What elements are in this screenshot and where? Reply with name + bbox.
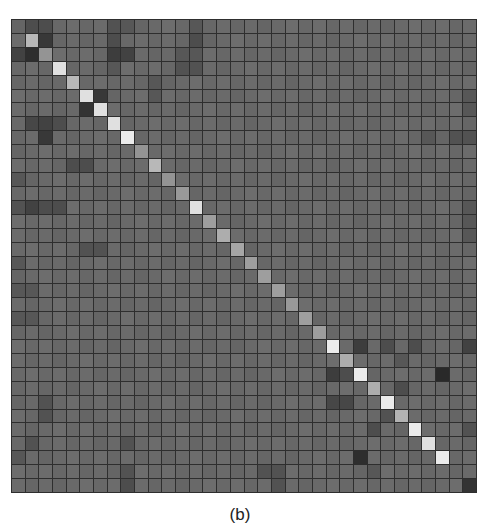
- matrix-cell: [436, 382, 449, 395]
- matrix-cell: [450, 410, 463, 423]
- matrix-cell: [12, 48, 25, 61]
- diagonal-cell: [327, 340, 340, 353]
- matrix-cell: [176, 312, 189, 325]
- matrix-cell: [217, 451, 230, 464]
- matrix-cell: [176, 131, 189, 144]
- matrix-cell: [203, 284, 216, 297]
- matrix-cell: [190, 257, 203, 270]
- matrix-cell: [381, 270, 394, 283]
- matrix-cell: [94, 465, 107, 478]
- matrix-cell: [26, 159, 39, 172]
- matrix-cell: [354, 103, 367, 116]
- matrix-cell: [354, 451, 367, 464]
- matrix-cell: [231, 354, 244, 367]
- matrix-cell: [340, 145, 353, 158]
- matrix-cell: [176, 382, 189, 395]
- matrix-cell: [217, 215, 230, 228]
- matrix-cell: [217, 423, 230, 436]
- matrix-cell: [368, 187, 381, 200]
- matrix-cell: [149, 215, 162, 228]
- matrix-cell: [395, 284, 408, 297]
- matrix-cell: [340, 396, 353, 409]
- matrix-cell: [381, 159, 394, 172]
- matrix-cell: [12, 465, 25, 478]
- matrix-cell: [53, 257, 66, 270]
- matrix-cell: [422, 173, 435, 186]
- matrix-cell: [368, 117, 381, 130]
- matrix-cell: [217, 410, 230, 423]
- matrix-cell: [53, 382, 66, 395]
- matrix-cell: [190, 298, 203, 311]
- matrix-cell: [217, 20, 230, 33]
- matrix-cell: [67, 131, 80, 144]
- matrix-cell: [463, 48, 476, 61]
- matrix-cell: [327, 159, 340, 172]
- matrix-cell: [53, 34, 66, 47]
- matrix-cell: [313, 437, 326, 450]
- matrix-cell: [203, 451, 216, 464]
- matrix-cell: [39, 145, 52, 158]
- matrix-cell: [245, 201, 258, 214]
- matrix-cell: [231, 396, 244, 409]
- matrix-cell: [299, 270, 312, 283]
- matrix-cell: [286, 173, 299, 186]
- matrix-cell: [121, 451, 134, 464]
- matrix-cell: [190, 326, 203, 339]
- matrix-cell: [381, 243, 394, 256]
- matrix-cell: [26, 103, 39, 116]
- matrix-cell: [286, 62, 299, 75]
- matrix-cell: [94, 215, 107, 228]
- matrix-cell: [108, 90, 121, 103]
- matrix-cell: [272, 90, 285, 103]
- matrix-cell: [80, 465, 93, 478]
- matrix-cell: [203, 34, 216, 47]
- matrix-cell: [422, 298, 435, 311]
- matrix-cell: [231, 173, 244, 186]
- matrix-cell: [409, 354, 422, 367]
- matrix-cell: [80, 270, 93, 283]
- diagonal-cell: [463, 479, 476, 492]
- matrix-cell: [286, 215, 299, 228]
- matrix-cell: [217, 437, 230, 450]
- matrix-cell: [53, 368, 66, 381]
- matrix-cell: [203, 423, 216, 436]
- matrix-cell: [203, 76, 216, 89]
- matrix-cell: [231, 159, 244, 172]
- matrix-cell: [272, 20, 285, 33]
- diagonal-cell: [135, 145, 148, 158]
- matrix-cell: [162, 159, 175, 172]
- matrix-cell: [39, 62, 52, 75]
- matrix-cell: [354, 173, 367, 186]
- matrix-cell: [313, 215, 326, 228]
- matrix-cell: [162, 145, 175, 158]
- matrix-cell: [422, 20, 435, 33]
- matrix-cell: [12, 145, 25, 158]
- matrix-cell: [217, 326, 230, 339]
- matrix-cell: [108, 229, 121, 242]
- matrix-cell: [108, 368, 121, 381]
- matrix-cell: [108, 396, 121, 409]
- matrix-cell: [354, 131, 367, 144]
- matrix-cell: [190, 76, 203, 89]
- matrix-cell: [381, 201, 394, 214]
- matrix-cell: [26, 173, 39, 186]
- matrix-cell: [286, 201, 299, 214]
- matrix-cell: [26, 340, 39, 353]
- matrix-cell: [272, 479, 285, 492]
- matrix-cell: [463, 187, 476, 200]
- matrix-cell: [135, 410, 148, 423]
- matrix-cell: [162, 423, 175, 436]
- matrix-cell: [217, 76, 230, 89]
- matrix-cell: [135, 187, 148, 200]
- matrix-cell: [94, 312, 107, 325]
- matrix-cell: [121, 326, 134, 339]
- matrix-cell: [108, 465, 121, 478]
- matrix-cell: [381, 215, 394, 228]
- matrix-cell: [231, 382, 244, 395]
- matrix-cell: [26, 257, 39, 270]
- matrix-cell: [354, 437, 367, 450]
- matrix-cell: [231, 340, 244, 353]
- matrix-cell: [422, 382, 435, 395]
- matrix-cell: [245, 298, 258, 311]
- matrix-cell: [26, 215, 39, 228]
